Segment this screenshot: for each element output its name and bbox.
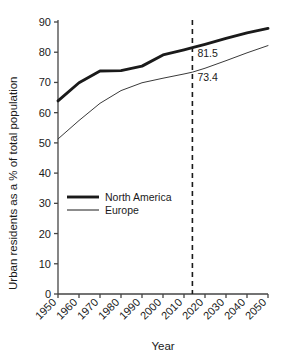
- y-tick-label: 20: [39, 228, 51, 240]
- y-tick-label: 70: [39, 76, 51, 88]
- legend-label-north-america[interactable]: North America: [105, 191, 172, 203]
- y-tick-label: 10: [39, 258, 51, 270]
- y-tick-label: 40: [39, 167, 51, 179]
- legend-label-europe[interactable]: Europe: [105, 204, 139, 216]
- y-tick-label: 30: [39, 197, 51, 209]
- y-tick-label: 60: [39, 107, 51, 119]
- chart-canvas: 0102030405060708090 19501960197019801990…: [0, 0, 284, 358]
- line-chart: 0102030405060708090 19501960197019801990…: [0, 0, 284, 358]
- y-tick-label: 90: [39, 16, 51, 28]
- y-axis-title: Urban residents as a % of total populati…: [7, 76, 19, 290]
- y-tick-label: 80: [39, 46, 51, 58]
- y-tick-label: 50: [39, 137, 51, 149]
- annotation-value: 81.5: [197, 47, 218, 59]
- annotation-value: 73.4: [197, 71, 218, 83]
- x-axis-title: Year: [151, 340, 174, 352]
